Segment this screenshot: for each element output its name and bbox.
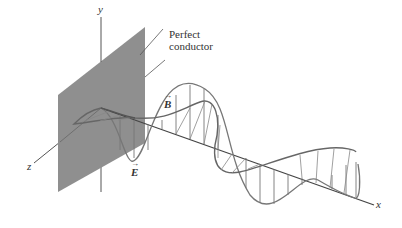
z-axis-label: z	[27, 160, 31, 172]
e-field-label: → E	[131, 166, 138, 178]
plate-label-line2: conductor	[169, 40, 213, 52]
standing-wave-diagram	[0, 0, 402, 228]
b-field-label: → B	[164, 98, 171, 110]
x-axis-label: x	[376, 198, 381, 210]
y-axis-label: y	[98, 3, 103, 15]
z-axis	[34, 142, 60, 163]
plate-label-line1: Perfect	[169, 28, 200, 40]
